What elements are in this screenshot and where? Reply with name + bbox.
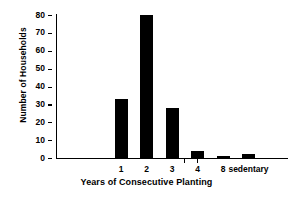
y-tick: 40	[0, 87, 52, 88]
bar-chart: Number of Households 01020304050607080 1…	[0, 0, 293, 197]
y-tick-label: 60	[36, 44, 45, 56]
x-tick-label: 3	[170, 163, 175, 175]
y-tick-mark	[48, 15, 52, 16]
y-tick: 80	[0, 15, 52, 16]
y-tick-label: 40	[36, 80, 45, 92]
y-tick-label: 0	[40, 152, 45, 164]
y-tick: 10	[0, 140, 52, 141]
x-tick-label: sedentary	[228, 163, 268, 175]
bar	[191, 151, 204, 158]
y-tick: 70	[0, 33, 52, 34]
y-tick-mark	[48, 69, 52, 70]
x-tick-label: 8	[221, 163, 226, 175]
bar	[166, 108, 179, 158]
y-tick-mark	[48, 104, 52, 105]
y-tick-mark	[48, 140, 52, 141]
y-tick: 30	[0, 104, 52, 105]
y-tick-label: 30	[36, 98, 45, 110]
y-tick: 60	[0, 51, 52, 52]
y-tick-label: 80	[36, 9, 45, 21]
y-tick-mark	[48, 158, 52, 159]
y-tick-label: 20	[36, 116, 45, 128]
x-tick-label: 1	[119, 163, 124, 175]
bar	[242, 154, 255, 158]
plot-area	[57, 15, 288, 158]
y-tick: 50	[0, 69, 52, 70]
x-tick-mark	[197, 159, 198, 163]
y-tick: 0	[0, 158, 52, 159]
x-axis-title: Years of Consecutive Planting	[0, 177, 293, 187]
bar	[140, 15, 153, 158]
y-axis-title: Number of Households	[16, 0, 30, 155]
x-tick-label: 4	[195, 163, 200, 175]
y-tick-label: 50	[36, 62, 45, 74]
x-tick-label: 2	[144, 163, 149, 175]
x-tick-separator	[184, 159, 185, 163]
bar	[217, 156, 230, 158]
y-tick-mark	[48, 87, 52, 88]
y-tick-mark	[48, 122, 52, 123]
y-tick-mark	[48, 51, 52, 52]
y-tick: 20	[0, 122, 52, 123]
y-tick-mark	[48, 33, 52, 34]
y-tick-label: 10	[36, 134, 45, 146]
bar	[115, 99, 128, 158]
y-tick-label: 70	[36, 26, 45, 38]
